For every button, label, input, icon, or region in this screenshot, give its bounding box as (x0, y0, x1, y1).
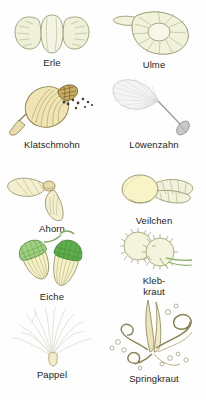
illustration-board: Erle Ulme (0, 0, 206, 400)
figure-erle: Erle (2, 8, 102, 68)
caption-veilchen: Veilchen (136, 215, 173, 226)
figure-klatschmohn: Klatschmohn (2, 78, 102, 150)
maple-samara-illustration (4, 172, 100, 222)
violet-seed-illustration (108, 172, 200, 214)
figure-eiche: Eiche (2, 228, 102, 302)
figure-veilchen: Veilchen (104, 172, 204, 226)
cleavers-burr-illustration (108, 228, 200, 274)
balsam-coiled-valve-illustration (106, 296, 202, 372)
figure-klebkraut: Kleb- kraut (104, 228, 204, 297)
caption-klatschmohn: Klatschmohn (24, 139, 80, 150)
caption-klebkraut: Kleb- kraut (143, 275, 166, 297)
alder-cone-illustration (9, 8, 95, 56)
caption-springkraut: Springkraut (129, 373, 179, 384)
figure-pappel: Pappel (2, 306, 102, 380)
figure-ulme: Ulme (104, 6, 204, 70)
elm-samara-illustration (108, 6, 200, 58)
figure-springkraut: Springkraut (104, 296, 204, 384)
dandelion-pappus-illustration (108, 74, 200, 138)
poppy-capsule-illustration (2, 78, 102, 138)
caption-eiche: Eiche (40, 291, 64, 302)
figure-loewenzahn: Löwenzahn (104, 74, 204, 150)
poplar-seed-hair-illustration (6, 306, 98, 368)
caption-ulme: Ulme (143, 59, 166, 70)
caption-pappel: Pappel (37, 369, 67, 380)
figure-ahorn: Ahorn (2, 172, 102, 234)
acorn-illustration (4, 228, 100, 290)
caption-erle: Erle (43, 57, 60, 68)
caption-loewenzahn: Löwenzahn (129, 139, 179, 150)
